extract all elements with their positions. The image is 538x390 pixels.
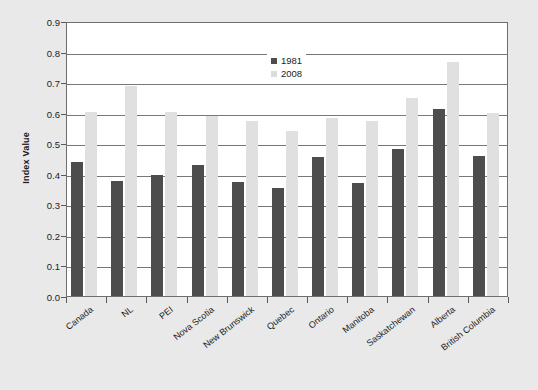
- legend-label: 2008: [281, 67, 302, 80]
- bar-2008: [447, 62, 459, 296]
- bar-group: [348, 23, 388, 296]
- bar-2008: [366, 121, 378, 296]
- y-axis-tick-label: 0.7: [32, 78, 60, 89]
- legend-label: 1981: [281, 54, 302, 67]
- y-axis-tick-mark: [61, 114, 66, 115]
- bar-group: [107, 23, 147, 296]
- y-axis-tick-label: 0.0: [32, 292, 60, 303]
- bar-1981: [192, 165, 204, 296]
- bar-chart-figure: Index Value 0.90.80.70.60.50.40.30.20.10…: [0, 0, 538, 390]
- x-axis-tick-mark: [187, 297, 188, 303]
- x-axis-tick-label: Quebec: [265, 304, 296, 331]
- y-axis-tick-mark: [61, 83, 66, 84]
- y-axis-tick-mark: [61, 205, 66, 206]
- x-axis-tick-mark: [146, 297, 147, 303]
- bar-2008: [246, 121, 258, 296]
- y-axis-tick-mark: [61, 144, 66, 145]
- y-axis-tick-label: 0.2: [32, 230, 60, 241]
- bar-1981: [151, 175, 163, 296]
- x-axis-tick-mark: [66, 297, 67, 303]
- bar-2008: [85, 112, 97, 296]
- bar-1981: [392, 149, 404, 296]
- bar-group: [388, 23, 428, 296]
- y-axis-tick-mark: [61, 266, 66, 267]
- y-axis-tick-label: 0.6: [32, 108, 60, 119]
- x-axis-tick-label: Manitoba: [341, 304, 376, 335]
- x-axis-tick-label: Canada: [64, 304, 95, 331]
- y-axis-tick-mark: [61, 297, 66, 298]
- x-axis-tick-label: PEI: [158, 304, 176, 321]
- y-axis-tick-label: 0.5: [32, 139, 60, 150]
- x-axis-tick-label: NL: [120, 304, 135, 319]
- bar-1981: [232, 182, 244, 296]
- bar-group: [469, 23, 509, 296]
- legend-swatch-icon: [271, 71, 277, 77]
- x-axis-tick-label: Ontario: [307, 304, 336, 330]
- bar-2008: [206, 116, 218, 296]
- bar-group: [228, 23, 268, 296]
- y-axis-tick-label: 0.3: [32, 200, 60, 211]
- bar-group: [147, 23, 187, 296]
- bar-group: [67, 23, 107, 296]
- y-axis-tick-label: 0.9: [32, 17, 60, 28]
- bar-2008: [406, 98, 418, 296]
- bar-1981: [473, 156, 485, 296]
- y-axis-tick-label: 0.1: [32, 261, 60, 272]
- x-axis-label-wrap: NL: [130, 299, 145, 314]
- chart-legend: 19812008: [267, 52, 306, 82]
- legend-item-2008: 2008: [271, 67, 302, 80]
- legend-item-1981: 1981: [271, 54, 302, 67]
- bar-1981: [312, 157, 324, 296]
- bar-2008: [165, 112, 177, 296]
- bar-2008: [125, 86, 137, 296]
- bar-2008: [487, 113, 499, 296]
- bar-2008: [326, 118, 338, 296]
- bar-group: [188, 23, 228, 296]
- bar-1981: [111, 181, 123, 296]
- y-axis-tick-mark: [61, 175, 66, 176]
- y-axis-tick-mark: [61, 236, 66, 237]
- bar-1981: [352, 183, 364, 296]
- bar-group: [308, 23, 348, 296]
- x-axis-tick-label: Alberta: [428, 304, 457, 329]
- bar-1981: [272, 188, 284, 296]
- legend-swatch-icon: [271, 58, 277, 64]
- bar-1981: [433, 109, 445, 296]
- bar-1981: [71, 162, 83, 296]
- y-axis-tick-label: 0.4: [32, 169, 60, 180]
- x-axis-label-wrap: PEI: [170, 297, 188, 314]
- bar-group: [429, 23, 469, 296]
- y-axis-tick-mark: [61, 53, 66, 54]
- y-axis-tick-label: 0.8: [32, 47, 60, 58]
- y-axis-tick-mark: [61, 22, 66, 23]
- y-axis-tick-labels: 0.90.80.70.60.50.40.30.20.10.0: [32, 0, 60, 390]
